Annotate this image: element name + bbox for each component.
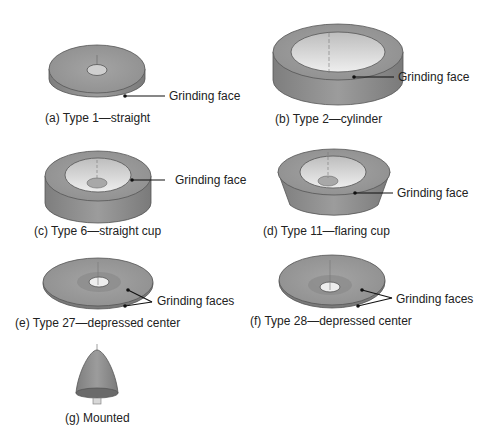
caption-c: (c) Type 6—straight cup (34, 224, 161, 238)
callout-grinding-face-a: Grinding face (169, 89, 240, 103)
caption-a: (a) Type 1—straight (45, 111, 150, 125)
caption-d: (d) Type 11—flaring cup (263, 224, 390, 238)
caption-f: (f) Type 28—depressed center (250, 314, 412, 328)
wheel-type-27-depressed-center (43, 258, 153, 309)
caption-e: (e) Type 27—depressed center (15, 316, 180, 330)
wheel-type-6-straight-cup (45, 151, 165, 223)
callout-grinding-faces-e: Grinding faces (157, 294, 234, 308)
wheel-type-1-straight (49, 45, 165, 98)
callout-grinding-faces-f: Grinding faces (396, 292, 473, 306)
callout-grinding-face-c: Grinding face (175, 173, 246, 187)
wheel-type-2-cylinder (273, 24, 403, 105)
wheel-type-28-depressed-center (279, 255, 392, 308)
callout-grinding-face-d: Grinding face (397, 186, 468, 200)
wheel-type-11-flaring-cup (278, 149, 393, 215)
grinding-wheels-diagram (0, 0, 498, 446)
caption-g: (g) Mounted (65, 411, 130, 425)
caption-b: (b) Type 2—cylinder (275, 112, 382, 126)
wheel-mounted (76, 344, 118, 404)
callout-grinding-face-b: Grinding face (398, 70, 469, 84)
